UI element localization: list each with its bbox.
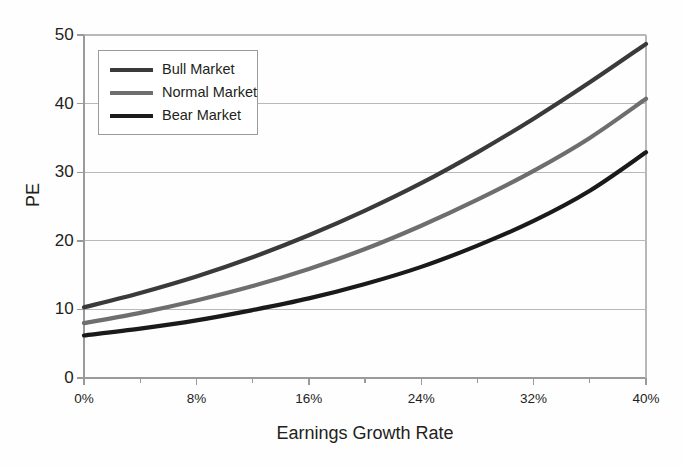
legend-item-label: Bull Market bbox=[162, 62, 235, 77]
chart-legend: Bull MarketNormal MarketBear Market bbox=[98, 50, 258, 135]
legend-swatch-icon bbox=[110, 91, 153, 95]
pe-vs-earnings-growth-chart: 01020304050 0%8%16%24%32%40% PE Earnings… bbox=[0, 0, 683, 466]
y-tick-label-0: 0 bbox=[26, 369, 74, 386]
y-tick-label-20: 20 bbox=[26, 232, 74, 249]
y-axis-title: PE bbox=[24, 172, 42, 218]
y-tick-label-50: 50 bbox=[26, 26, 74, 43]
legend-item-bull-market: Bull Market bbox=[99, 58, 257, 81]
y-tick-label-40: 40 bbox=[26, 95, 74, 112]
x-tick-label-16: 16% bbox=[279, 392, 339, 406]
x-tick-label-24: 24% bbox=[391, 392, 451, 406]
legend-item-bear-market: Bear Market bbox=[99, 104, 257, 127]
x-tick-label-8: 8% bbox=[166, 392, 226, 406]
legend-swatch-icon bbox=[110, 68, 153, 72]
x-tick-label-32: 32% bbox=[504, 392, 564, 406]
legend-swatch-icon bbox=[110, 114, 153, 118]
x-axis-title: Earnings Growth Rate bbox=[84, 424, 646, 442]
legend-item-label: Bear Market bbox=[162, 108, 241, 123]
y-tick-label-10: 10 bbox=[26, 300, 74, 317]
x-tick-label-0: 0% bbox=[54, 392, 114, 406]
x-tick-label-40: 40% bbox=[616, 392, 676, 406]
legend-item-label: Normal Market bbox=[162, 85, 257, 100]
legend-item-normal-market: Normal Market bbox=[99, 81, 257, 104]
